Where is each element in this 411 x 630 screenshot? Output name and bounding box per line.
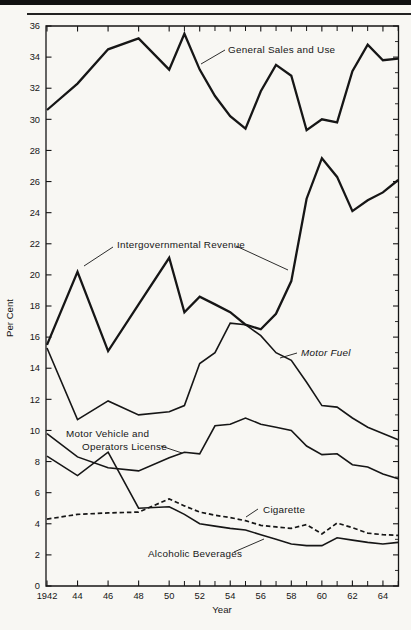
annotation-leader (246, 509, 258, 517)
y-tick-label: 26 (30, 177, 40, 187)
x-tick-label: 1942 (37, 591, 58, 601)
x-tick-label: 44 (72, 591, 82, 601)
series-line-alcoholic-beverages (47, 452, 398, 545)
x-tick-label: 46 (103, 591, 113, 601)
x-axis-title: Year (212, 604, 232, 615)
x-tick-label: 54 (225, 591, 235, 601)
y-tick-label: 6 (35, 488, 40, 498)
y-tick-label: 20 (30, 270, 40, 280)
annotation-label: Operators License (82, 441, 167, 452)
y-tick-label: 22 (30, 239, 40, 249)
y-tick-label: 18 (30, 301, 40, 311)
x-tick-label: 62 (347, 591, 357, 601)
y-tick-label: 14 (30, 363, 40, 373)
series-line-general-sales-and-use (47, 34, 398, 130)
annotation-label: Cigarette (263, 504, 306, 515)
y-tick-label: 4 (35, 519, 40, 529)
y-tick-label: 30 (30, 115, 40, 125)
series-line-motor-fuel (47, 323, 398, 440)
annotation-leader (84, 247, 113, 266)
y-tick-label: 36 (30, 21, 40, 31)
x-tick-label: 50 (164, 591, 174, 601)
annotation-leader (201, 50, 225, 64)
y-tick-label: 16 (30, 332, 40, 342)
annotation-label: Motor Fuel (301, 347, 351, 358)
y-tick-label: 10 (30, 426, 40, 436)
x-tick-label: 64 (378, 591, 388, 601)
x-tick-label: 60 (317, 591, 327, 601)
series-line-cigarette (47, 499, 398, 536)
annotation-label: Motor Vehicle and (66, 428, 149, 439)
annotation-label: Alcoholic Beverages (148, 548, 242, 559)
x-tick-label: 56 (256, 591, 266, 601)
x-tick-label: 48 (133, 591, 143, 601)
y-tick-label: 24 (30, 208, 40, 218)
x-tick-label: 58 (286, 591, 296, 601)
y-tick-label: 34 (30, 52, 40, 62)
y-tick-label: 32 (30, 83, 40, 93)
x-tick-label: 52 (195, 591, 205, 601)
annotation-label: Intergovernmental Revenue (117, 239, 245, 250)
annotation-label: General Sales and Use (228, 44, 336, 55)
y-axis-title: Per Cent (4, 299, 15, 337)
plot-frame (46, 26, 399, 586)
chart-svg: Per Cent Year 02468101214161820222426283… (0, 0, 411, 630)
y-tick-label: 12 (30, 395, 40, 405)
y-tick-label: 8 (35, 457, 40, 467)
y-tick-label: 28 (30, 146, 40, 156)
y-tick-label: 2 (35, 550, 40, 560)
series-line-intergovernmental-revenue (47, 158, 398, 351)
page: Per Cent Year 02468101214161820222426283… (0, 0, 411, 630)
